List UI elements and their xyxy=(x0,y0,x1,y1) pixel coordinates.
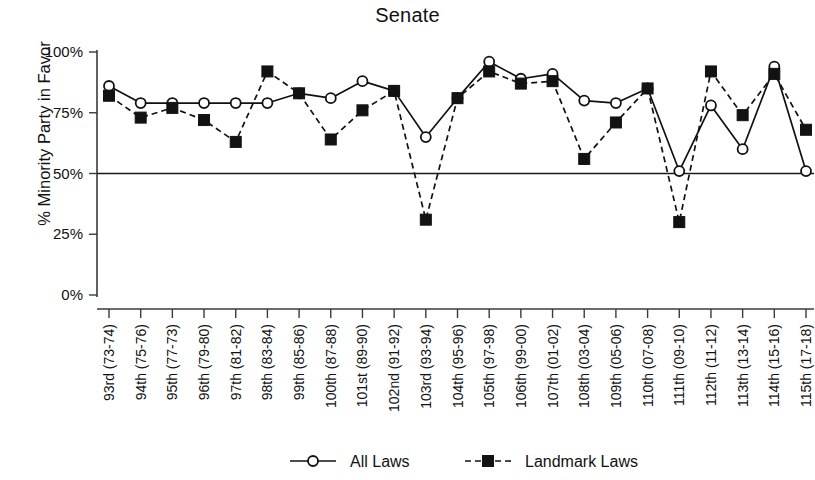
x-tick-label: 107th (01-02) xyxy=(545,324,561,408)
legend-label-0: All Laws xyxy=(350,453,410,470)
data-point-all-laws xyxy=(199,98,209,108)
data-point-all-laws xyxy=(231,98,241,108)
data-point-landmark-laws xyxy=(674,217,685,228)
data-point-all-laws xyxy=(136,98,146,108)
chart-figure: Senate % Minority Party in Favor 0%25%50… xyxy=(0,0,815,480)
data-point-all-laws xyxy=(357,76,367,86)
data-point-landmark-laws xyxy=(610,117,621,128)
data-point-landmark-laws xyxy=(642,83,653,94)
y-tick-label: 0% xyxy=(61,286,83,303)
data-point-landmark-laws xyxy=(737,110,748,121)
y-tick-label: 50% xyxy=(53,165,83,182)
x-tick-label: 104th (95-96) xyxy=(450,324,466,408)
x-tick-label: 96th (79-80) xyxy=(196,324,212,400)
data-point-landmark-laws xyxy=(769,68,780,79)
x-tick-label: 113th (13-14) xyxy=(735,324,751,407)
x-tick-label: 114th (15-16) xyxy=(766,324,782,407)
data-point-landmark-laws xyxy=(452,93,463,104)
x-tick-label: 105th (97-98) xyxy=(481,324,497,408)
data-point-all-laws xyxy=(326,93,336,103)
plot-area: 0%25%50%75%100% 93rd (73-74)94th (75-76)… xyxy=(0,0,815,480)
x-tick-label: 99th (85-86) xyxy=(291,324,307,400)
x-tick-label: 109th (05-06) xyxy=(608,324,624,408)
x-tick-label: 111th (09-10) xyxy=(671,324,687,406)
data-point-all-laws xyxy=(801,166,811,176)
x-tick-label: 100th (87-88) xyxy=(323,324,339,408)
data-point-landmark-laws xyxy=(230,136,241,147)
x-tick-label: 94th (75-76) xyxy=(133,324,149,400)
data-point-landmark-laws xyxy=(579,153,590,164)
data-point-landmark-laws xyxy=(484,66,495,77)
x-axis-labels: 93rd (73-74)94th (75-76)95th (77-73)96th… xyxy=(101,324,814,412)
data-point-all-laws xyxy=(484,57,494,67)
y-tick-label: 25% xyxy=(53,225,83,242)
x-tick-label: 101st (89-90) xyxy=(354,324,370,407)
x-tick-label: 110th (07-08) xyxy=(640,324,656,407)
data-point-all-laws xyxy=(579,96,589,106)
data-point-landmark-laws xyxy=(294,88,305,99)
y-axis-title: % Minority Party in Favor xyxy=(35,0,54,274)
data-point-landmark-laws xyxy=(389,85,400,96)
data-point-landmark-laws xyxy=(801,124,812,135)
data-point-landmark-laws xyxy=(104,90,115,101)
data-point-all-laws xyxy=(674,166,684,176)
data-point-all-laws xyxy=(706,100,716,110)
chart-legend: All LawsLandmark Laws xyxy=(290,453,638,470)
data-point-all-laws xyxy=(262,98,272,108)
data-point-all-laws xyxy=(611,98,621,108)
x-tick-label: 108th (03-04) xyxy=(576,324,592,408)
data-point-landmark-laws xyxy=(547,76,558,87)
x-tick-label: 102nd (91-92) xyxy=(386,324,402,412)
x-axis-ticks xyxy=(109,309,806,318)
legend-label-1: Landmark Laws xyxy=(525,453,638,470)
data-point-landmark-laws xyxy=(135,112,146,123)
x-tick-label: 115th (17-18) xyxy=(798,324,814,407)
data-point-landmark-laws xyxy=(515,78,526,89)
chart-title: Senate xyxy=(0,4,815,27)
x-tick-label: 98th (83-84) xyxy=(259,324,275,400)
data-point-landmark-laws xyxy=(167,102,178,113)
data-point-landmark-laws xyxy=(199,115,210,126)
data-point-landmark-laws xyxy=(325,134,336,145)
series-layer xyxy=(104,57,812,228)
data-point-landmark-laws xyxy=(357,105,368,116)
x-tick-label: 106th (99-00) xyxy=(513,324,529,408)
data-point-landmark-laws xyxy=(262,66,273,77)
legend-marker-filled-square-icon xyxy=(483,456,494,467)
data-point-all-laws xyxy=(104,81,114,91)
x-tick-label: 112th (11-12) xyxy=(703,324,719,406)
data-point-landmark-laws xyxy=(705,66,716,77)
x-tick-label: 93rd (73-74) xyxy=(101,324,117,401)
x-tick-label: 97th (81-82) xyxy=(228,324,244,400)
data-point-landmark-laws xyxy=(420,214,431,225)
y-tick-label: 75% xyxy=(53,104,83,121)
x-tick-label: 103rd (93-94) xyxy=(418,324,434,409)
data-point-all-laws xyxy=(421,132,431,142)
data-point-all-laws xyxy=(738,144,748,154)
x-tick-label: 95th (77-73) xyxy=(164,324,180,400)
legend-marker-open-circle-icon xyxy=(308,456,318,466)
